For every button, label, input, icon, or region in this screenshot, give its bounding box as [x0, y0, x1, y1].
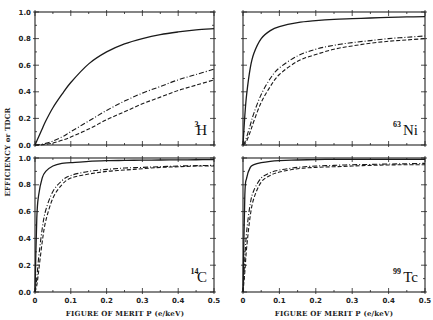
y-tick-label: 0.6	[19, 208, 32, 216]
y-tick-label: 0.2	[19, 115, 32, 123]
y-tick-label: 0.4	[19, 235, 32, 243]
y-axis-title: EFFICIENCY or TDCR	[3, 107, 12, 196]
curve-solid	[35, 29, 214, 145]
curve-dashed	[243, 39, 425, 145]
x-tick-label: 0.1	[273, 297, 286, 305]
x-tick-label: 0.2	[100, 297, 113, 305]
isotope-mass-number: 14	[191, 267, 199, 276]
x-tick-label: 0.3	[136, 297, 149, 305]
isotope-mass-number: 63	[393, 120, 401, 129]
panel-technetium-99: 00.10.20.30.40.5Tc99	[241, 156, 432, 305]
y-tick-label: 0.4	[19, 88, 32, 96]
y-tick-label: 0.6	[19, 62, 32, 70]
x-axis-title-left: FIGURE OF MERIT P (e/keV)	[66, 309, 184, 318]
isotope-label: Ni	[403, 122, 418, 138]
x-tick-label: 0	[33, 297, 38, 305]
isotope-label: Tc	[403, 269, 418, 285]
curve-dash-dot	[35, 165, 214, 292]
y-tick-label: 1.0	[19, 9, 32, 17]
x-tick-label: 0.1	[65, 297, 78, 305]
y-tick-label: 0.0	[19, 289, 32, 297]
x-tick-label: 0.4	[382, 297, 395, 305]
curve-dashed	[35, 166, 214, 292]
x-tick-label: 0	[241, 297, 246, 305]
y-tick-label: 1.0	[19, 155, 32, 163]
isotope-mass-number: 99	[393, 267, 401, 276]
x-tick-label: 0.3	[346, 297, 359, 305]
isotope-mass-number: 3	[195, 120, 199, 129]
figure: 0.00.20.40.60.81.0H3 Ni63 00.10.20.30.40…	[0, 0, 433, 320]
x-tick-label: 0.2	[310, 297, 323, 305]
y-tick-label: 0.8	[19, 35, 32, 43]
y-tick-label: 0.8	[19, 181, 32, 189]
curve-dash-dot	[35, 69, 214, 145]
plot-frame	[35, 12, 214, 145]
curve-solid	[35, 160, 214, 292]
x-axis-title-right: FIGURE OF MERIT P (e/keV)	[275, 309, 393, 318]
x-tick-label: 0.5	[208, 297, 221, 305]
panel-tritium: 0.00.20.40.60.81.0H3	[19, 9, 216, 150]
x-tick-label: 0.5	[419, 297, 432, 305]
x-tick-label: 0.4	[172, 297, 185, 305]
curve-dashed	[35, 80, 214, 145]
panel-carbon-14: 00.10.20.30.40.50.00.20.40.60.81.0C14	[19, 155, 221, 306]
y-tick-label: 0.2	[19, 262, 32, 270]
plot-frame	[35, 158, 214, 292]
panel-nickel-63: Ni63	[241, 10, 427, 147]
y-tick-label: 0.0	[19, 142, 32, 150]
